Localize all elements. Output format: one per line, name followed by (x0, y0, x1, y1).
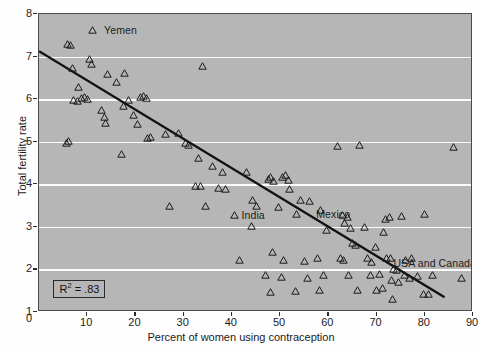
data-point-triangle-icon (353, 286, 362, 294)
data-point-triangle-icon (378, 284, 387, 292)
x-tick-mark (327, 312, 328, 316)
x-tick-label: 50 (273, 316, 285, 328)
data-point-triangle-icon (74, 83, 83, 91)
x-tick-label-origin: 0 (0, 312, 32, 324)
data-point-triangle-icon (284, 176, 293, 184)
r-squared-annotation: R2 = .83 (53, 280, 105, 298)
data-point-triangle-icon (165, 202, 174, 210)
data-point-triangle-icon (201, 202, 210, 210)
data-point-triangle-icon (129, 111, 138, 119)
data-point-triangle-icon (420, 210, 429, 218)
x-tick-label: 80 (418, 316, 430, 328)
data-point-triangle-icon (296, 196, 305, 204)
data-point-triangle-icon (371, 243, 380, 251)
point-label-mexico: Mexico (316, 208, 350, 220)
data-point-triangle-icon (242, 168, 251, 176)
data-point-triangle-icon (83, 95, 92, 103)
x-tick-mark (472, 312, 473, 316)
data-point-triangle-icon (174, 129, 183, 137)
data-point-triangle-icon (291, 287, 300, 295)
x-tick-mark (134, 312, 135, 316)
data-point-triangle-icon (315, 286, 324, 294)
data-point-triangle-icon (208, 162, 217, 170)
data-point-triangle-icon (300, 257, 309, 265)
x-tick-label: 10 (80, 316, 92, 328)
point-label-usa-and-canada: USA and Canada (393, 257, 472, 269)
x-tick-label: 20 (128, 316, 140, 328)
y-tick-mark (33, 98, 37, 99)
data-point-triangle-icon (146, 133, 155, 141)
y-tick-mark (33, 226, 37, 227)
x-tick-mark (231, 312, 232, 316)
data-point-triangle-icon (68, 64, 77, 72)
y-tick-label: 7 (0, 50, 32, 62)
data-point-triangle-icon (87, 60, 96, 68)
data-point-triangle-icon (379, 228, 388, 236)
data-point-triangle-icon (196, 182, 205, 190)
y-tick-mark (33, 311, 37, 312)
x-axis-label: Percent of women using contraception (0, 331, 482, 343)
data-point-triangle-icon (277, 273, 286, 281)
point-label-india: India (242, 209, 265, 221)
data-point-triangle-icon (269, 177, 278, 185)
data-point-triangle-icon (367, 258, 376, 266)
data-point-triangle-icon (120, 69, 129, 77)
x-tick-mark (279, 312, 280, 316)
data-point-triangle-icon (198, 62, 207, 70)
data-point-triangle-icon (119, 102, 128, 110)
data-point-triangle-icon (235, 256, 244, 264)
y-tick-mark (33, 13, 37, 14)
data-point-triangle-icon (161, 130, 170, 138)
data-point-triangle-icon (66, 41, 75, 49)
data-point-triangle-icon (133, 120, 142, 128)
x-tick-label: 30 (177, 316, 189, 328)
x-tick-mark (86, 312, 87, 316)
data-point-triangle-icon (457, 274, 466, 282)
data-point-triangle-icon (292, 210, 301, 218)
data-point-triangle-icon (194, 154, 203, 162)
y-tick-mark (33, 56, 37, 57)
data-point-triangle-icon (388, 295, 397, 303)
data-point-triangle-icon (274, 203, 283, 211)
data-point-triangle-icon (305, 197, 314, 205)
data-point-triangle-icon (413, 272, 422, 280)
data-point-triangle-icon (221, 185, 230, 193)
data-point-triangle-icon (117, 150, 126, 158)
data-point-triangle-icon (303, 274, 312, 282)
x-tick-mark (424, 312, 425, 316)
x-tick-label: 60 (321, 316, 333, 328)
data-point-triangle-icon (218, 168, 227, 176)
y-tick-label: 8 (0, 7, 32, 19)
point-label-yemen: Yemen (104, 24, 137, 36)
data-point-triangle-icon (268, 248, 277, 256)
data-point-triangle-icon (112, 78, 121, 86)
data-point-triangle-icon (351, 241, 360, 249)
data-point-triangle-icon (230, 211, 239, 219)
y-tick-mark (33, 183, 37, 184)
data-point-triangle-icon (360, 223, 369, 231)
y-tick-label: 2 (0, 262, 32, 274)
data-point-triangle-icon (101, 119, 110, 127)
x-tick-mark (183, 312, 184, 316)
data-point-triangle-icon (394, 278, 403, 286)
y-tick-mark (33, 141, 37, 142)
x-tick-mark (376, 312, 377, 316)
data-point-triangle-icon (313, 254, 322, 262)
chart-root: R2 = .83YemenIndiaMexicoUSA and Canada 1… (0, 0, 482, 349)
data-point-triangle-icon (142, 94, 151, 102)
y-tick-label: 3 (0, 220, 32, 232)
data-point-triangle-icon (449, 143, 458, 151)
data-point-triangle-icon (333, 142, 342, 150)
data-point-triangle-icon (424, 290, 433, 298)
data-point-triangle-icon (385, 213, 394, 221)
y-tick-mark (33, 268, 37, 269)
x-tick-label: 40 (225, 316, 237, 328)
data-point-triangle-icon (261, 271, 270, 279)
data-point-triangle-icon (375, 270, 384, 278)
data-point-triangle-icon (247, 222, 256, 230)
data-point-triangle-icon (322, 226, 331, 234)
data-point-triangle-icon (279, 256, 288, 264)
data-point-triangle-icon (355, 141, 364, 149)
data-point-triangle-icon (285, 185, 294, 193)
data-point-triangle-icon (62, 139, 71, 147)
